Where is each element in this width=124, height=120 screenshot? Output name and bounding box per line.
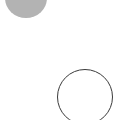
canvas [0, 0, 124, 120]
outline-circle [57, 69, 113, 120]
filled-gray-circle [5, 0, 47, 18]
